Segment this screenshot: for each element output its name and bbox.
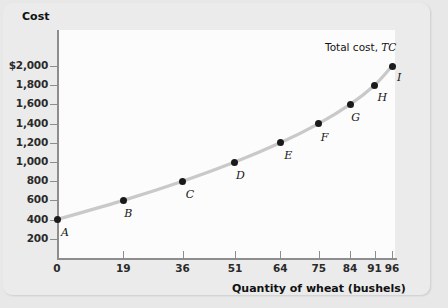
x-axis-tick — [280, 251, 281, 258]
data-point-label-g: G — [351, 111, 360, 124]
data-point-label-h: H — [378, 91, 388, 104]
series-label-symbol: TC — [381, 41, 396, 53]
y-axis-line — [57, 30, 59, 260]
x-axis-tick-label: 51 — [215, 262, 255, 274]
data-point-label-b: B — [124, 207, 132, 220]
y-axis-tick-label: 1,400 — [0, 117, 48, 129]
data-point-label-i: I — [397, 71, 401, 84]
series-label-text: Total cost, — [325, 41, 378, 53]
y-axis-tick — [50, 143, 57, 144]
data-point-label-e: E — [284, 149, 292, 162]
x-axis-tick — [183, 251, 184, 258]
x-axis-tick — [319, 251, 320, 258]
data-point-a — [54, 216, 61, 223]
data-point-i — [389, 63, 396, 70]
data-point-label-f: F — [321, 131, 329, 144]
y-axis-tick-label: 1,200 — [0, 136, 48, 148]
y-axis-tick-label: 200 — [0, 232, 48, 244]
x-axis-tick — [375, 251, 376, 258]
y-axis-tick — [50, 162, 57, 163]
x-axis-tick — [123, 251, 124, 258]
data-point-h — [371, 82, 378, 89]
y-axis-tick — [50, 124, 57, 125]
x-axis-tick — [235, 251, 236, 258]
x-axis-title: Quantity of wheat (bushels) — [232, 282, 406, 295]
x-axis-tick-label: 36 — [163, 262, 203, 274]
y-axis-tick-label: $2,000 — [0, 59, 48, 71]
chart-figure: Cost Quantity of wheat (bushels) 2004006… — [0, 0, 448, 308]
x-axis-tick — [392, 251, 393, 258]
y-axis-tick-label: 800 — [0, 174, 48, 186]
y-axis-tick — [50, 200, 57, 201]
y-axis-tick — [50, 239, 57, 240]
data-point-c — [179, 178, 186, 185]
data-point-g — [347, 101, 354, 108]
data-point-label-a: A — [61, 226, 69, 239]
y-axis-tick-label: 400 — [0, 213, 48, 225]
x-axis-tick-label: 96 — [372, 262, 412, 274]
y-axis-tick — [50, 104, 57, 105]
x-axis-line — [57, 258, 397, 260]
y-axis-tick-label: 1,800 — [0, 78, 48, 90]
y-axis-tick — [50, 85, 57, 86]
x-axis-tick — [350, 251, 351, 258]
x-axis-tick-label: 19 — [103, 262, 143, 274]
y-axis-tick — [50, 181, 57, 182]
data-point-b — [120, 197, 127, 204]
y-axis-tick-label: 600 — [0, 193, 48, 205]
plot-area — [57, 30, 395, 258]
y-axis-tick — [50, 66, 57, 67]
x-axis-tick-label: 0 — [37, 262, 77, 274]
data-point-label-c: C — [186, 188, 194, 201]
y-axis-tick-label: 1,000 — [0, 155, 48, 167]
y-axis-tick-label: 1,600 — [0, 97, 48, 109]
x-axis-tick-label: 64 — [260, 262, 300, 274]
data-point-label-d: D — [236, 169, 245, 182]
y-axis-title: Cost — [22, 10, 49, 23]
series-label: Total cost, TC — [325, 41, 396, 53]
